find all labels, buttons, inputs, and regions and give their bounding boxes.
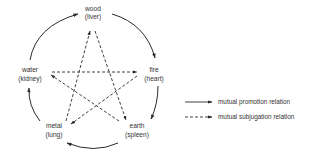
subjugation-lines [51, 31, 137, 124]
node-metal-name: metal [46, 122, 63, 129]
node-earth-organ: (spleen) [125, 131, 149, 139]
arc-fire-to-earth [151, 86, 158, 119]
legend-subjugation-label: mutual subjugation relation [218, 113, 295, 121]
node-wood-organ: (liver) [85, 13, 101, 21]
line-fire-to-metal [71, 76, 137, 124]
legend-item-promotion: mutual promotion relation [185, 98, 291, 106]
node-fire-name: fire [149, 66, 158, 73]
arc-metal-to-water [29, 88, 40, 121]
node-fire-organ: (heart) [144, 75, 163, 83]
five-elements-diagram: wood (liver) fire (heart) earth (spleen)… [0, 0, 323, 156]
line-metal-to-wood [66, 31, 90, 121]
line-wood-to-earth [95, 31, 126, 120]
node-metal-organ: (lung) [46, 131, 63, 139]
legend-promotion-label: mutual promotion relation [218, 98, 291, 106]
arc-water-to-wood [30, 14, 78, 60]
node-wood-name: wood [84, 5, 101, 12]
node-labels: wood (liver) fire (heart) earth (spleen)… [18, 5, 163, 139]
arc-earth-to-metal [67, 143, 118, 149]
legend: mutual promotion relation mutual subjuga… [185, 98, 295, 121]
legend-item-subjugation: mutual subjugation relation [185, 113, 295, 121]
node-water-name: water [21, 66, 39, 73]
node-water-organ: (kidney) [18, 75, 41, 83]
line-earth-to-water [51, 75, 119, 121]
node-earth-name: earth [129, 122, 144, 129]
arc-wood-to-fire [112, 14, 155, 58]
